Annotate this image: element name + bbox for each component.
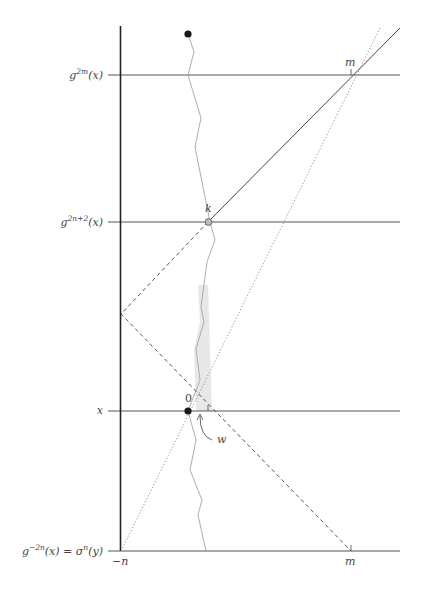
label-m-bottom: m bbox=[345, 556, 355, 567]
k-point bbox=[205, 219, 212, 226]
label-bottom-tail2: (y) bbox=[88, 545, 103, 558]
label-x: x bbox=[97, 405, 103, 416]
label-g2m: g2m(x) bbox=[69, 68, 103, 81]
label-bottom-tail: (x) = σ bbox=[45, 545, 84, 558]
diagram-canvas bbox=[0, 0, 424, 593]
solid-diagonal bbox=[208, 28, 400, 222]
label-bottom-base: g bbox=[22, 545, 29, 558]
label-g2n2-sup: 2n+2 bbox=[68, 214, 89, 223]
label-m-top: m bbox=[345, 57, 355, 68]
label-neg-n: −n bbox=[112, 556, 128, 567]
dotted-line bbox=[121, 28, 380, 551]
label-zero: 0 bbox=[185, 393, 192, 404]
label-g2n2-base: g bbox=[60, 216, 67, 229]
label-g2m-tail: (x) bbox=[88, 69, 103, 82]
origin-dot bbox=[184, 407, 191, 414]
w-arrow bbox=[200, 416, 212, 440]
label-bottom: g−2n(x) = σn(y) bbox=[22, 544, 103, 557]
label-bottom-sup: −2n bbox=[29, 543, 45, 552]
label-g2n2: g2n+2(x) bbox=[60, 215, 103, 228]
label-x-base: x bbox=[97, 404, 103, 417]
label-k: k bbox=[205, 203, 212, 214]
dashed-path bbox=[121, 222, 351, 551]
label-g2m-sup: 2m bbox=[76, 67, 88, 76]
top-dot bbox=[184, 30, 191, 37]
label-w: w bbox=[217, 434, 226, 445]
label-g2n2-tail: (x) bbox=[88, 216, 103, 229]
